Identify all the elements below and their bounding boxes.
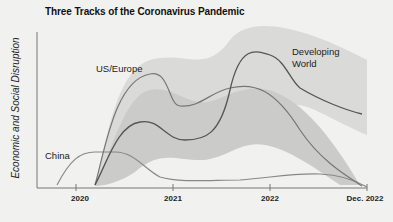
label-us-europe: US/Europe (96, 63, 142, 75)
label-developing-line1: Developing (292, 46, 340, 58)
label-developing-world: Developing World (292, 46, 340, 70)
x-tick-label-dec-2022: Dec. 2022 (347, 194, 384, 203)
x-tick-label-2022: 2022 (261, 194, 279, 203)
label-developing-line2: World (292, 58, 340, 70)
label-china: China (45, 150, 70, 162)
x-tick-label-2021: 2021 (164, 194, 182, 203)
x-tick-label-2020: 2020 (71, 194, 89, 203)
chart-plot (0, 0, 393, 222)
